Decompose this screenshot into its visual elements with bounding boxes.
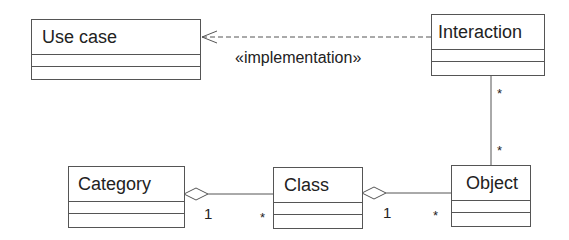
operations-compartment <box>452 213 530 227</box>
attributes-compartment <box>432 50 544 62</box>
operations-compartment <box>69 214 184 228</box>
attributes-compartment <box>32 55 200 67</box>
implementation-stereotype-label: «implementation» <box>235 50 361 66</box>
aggregation-diamond-icon <box>184 188 208 200</box>
class-box-object[interactable]: Object <box>451 165 531 227</box>
attributes-compartment <box>452 201 530 213</box>
aggregation-diamond-icon <box>362 187 386 199</box>
multiplicity-label: * <box>260 211 265 224</box>
multiplicity-label: 1 <box>204 206 212 221</box>
operations-compartment <box>274 215 362 229</box>
class-name: Category <box>69 167 184 202</box>
multiplicity-label: * <box>497 144 502 157</box>
class-box-class[interactable]: Class <box>273 167 363 229</box>
class-box-use-case[interactable]: Use case <box>31 19 201 80</box>
operations-compartment <box>432 62 544 76</box>
attributes-compartment <box>69 202 184 214</box>
class-name: Use case <box>32 20 200 55</box>
class-box-category[interactable]: Category <box>68 166 185 228</box>
class-name: Interaction <box>432 15 544 50</box>
multiplicity-label: 1 <box>383 205 391 220</box>
class-name: Object <box>452 166 530 201</box>
multiplicity-label: * <box>497 87 502 100</box>
class-name: Class <box>274 168 362 203</box>
operations-compartment <box>32 67 200 81</box>
class-box-interaction[interactable]: Interaction <box>431 14 545 76</box>
attributes-compartment <box>274 203 362 215</box>
multiplicity-label: * <box>433 209 438 222</box>
